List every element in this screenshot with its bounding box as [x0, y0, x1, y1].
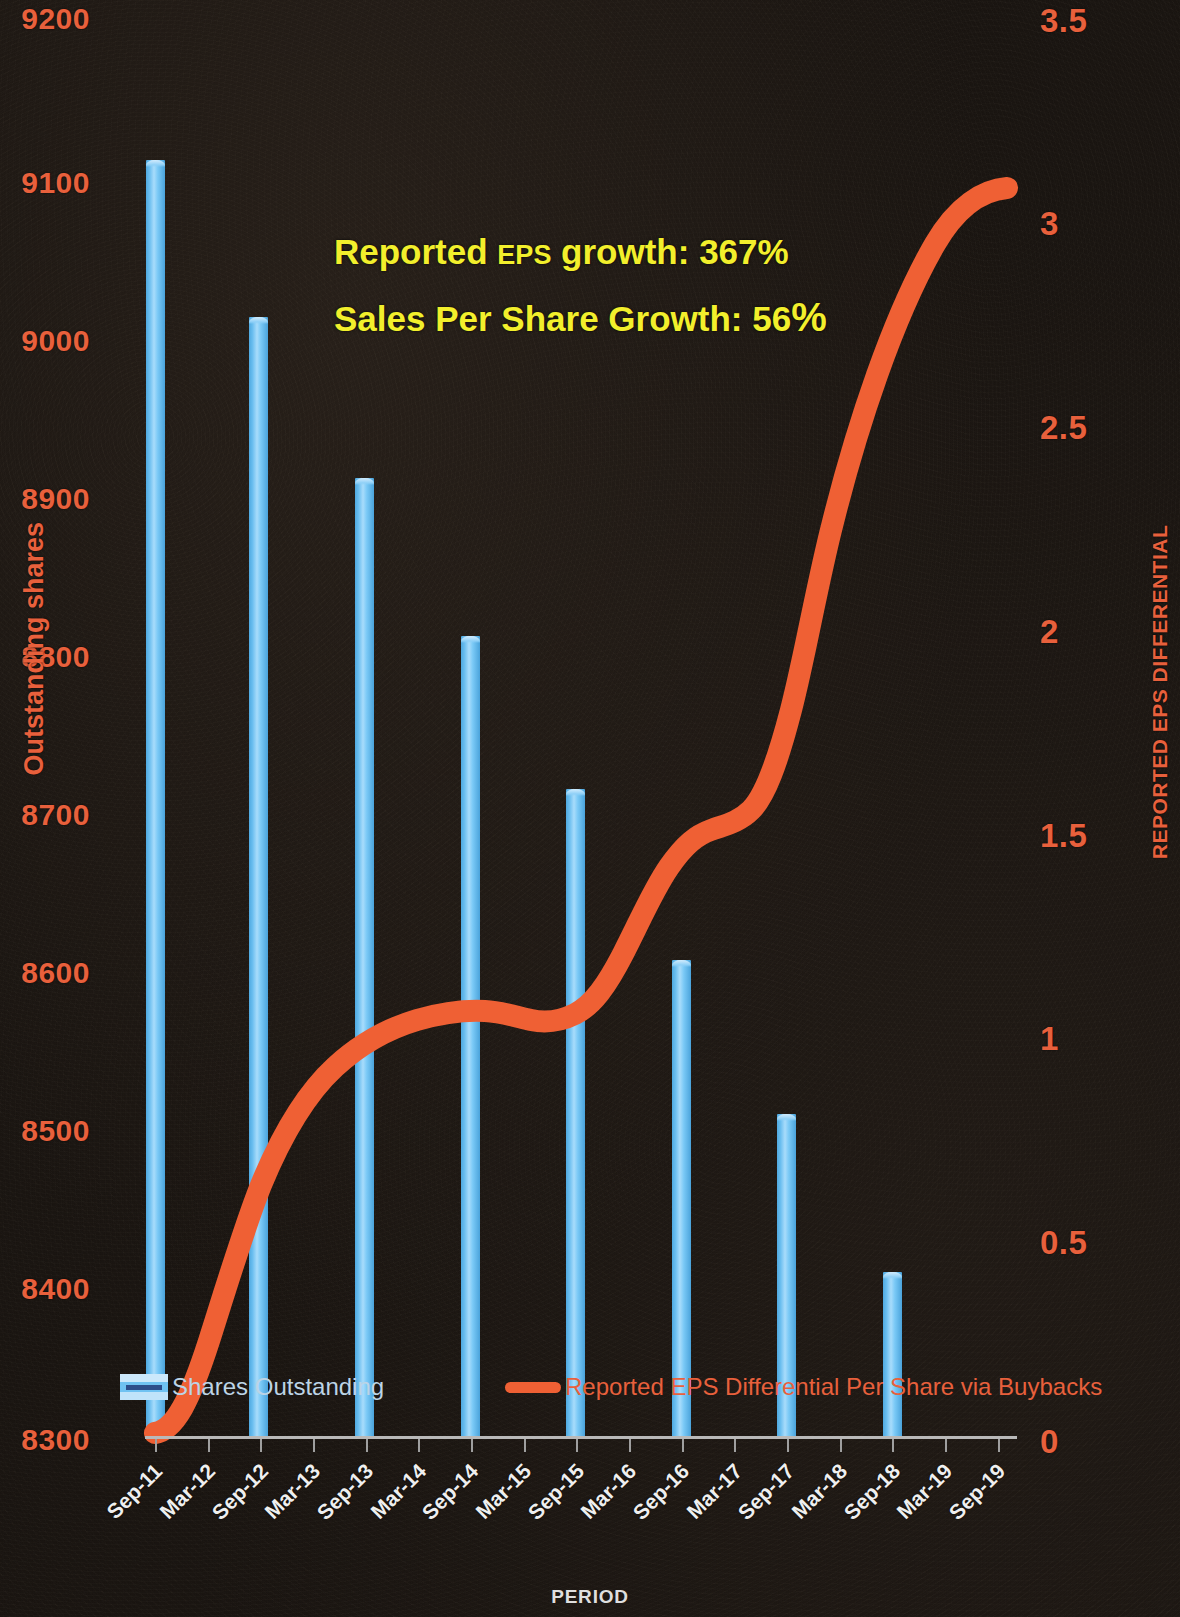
x-tickmark-14	[892, 1439, 894, 1452]
annotation-eps-growth-eps: EPS	[497, 240, 551, 270]
x-tickmark-7	[524, 1439, 526, 1452]
annotation-eps-growth-part2: growth: 367	[551, 232, 757, 271]
x-label-sep-17: Sep-17	[733, 1459, 799, 1525]
y-left-tick-8600: 8600	[21, 956, 90, 990]
chart-canvas: 9200 9100 9000 8900 8800 8700 8600 8500 …	[0, 0, 1180, 1617]
y-right-tick-1-5: 1.5	[1040, 817, 1087, 855]
annotation-sales-growth-text: Sales Per Share Growth: 56	[334, 299, 791, 338]
x-label-sep-11: Sep-11	[102, 1459, 167, 1524]
legend-item-eps-differential[interactable]: Reported EPS Differential Per Share via …	[505, 1373, 1102, 1401]
y-left-tick-9100: 9100	[21, 166, 90, 200]
x-label-sep-15: Sep-15	[523, 1459, 589, 1525]
y-axis-right-title: REPORTED EPS DIFFERENTIAL	[1148, 522, 1172, 862]
y-left-tick-9000: 9000	[21, 324, 90, 358]
x-tickmark-4	[366, 1439, 368, 1452]
x-tickmark-3	[313, 1439, 315, 1452]
legend-line-swatch-icon	[505, 1382, 561, 1393]
x-tickmark-13	[840, 1439, 842, 1452]
x-label-mar-19: Mar-19	[892, 1459, 957, 1524]
x-label-mar-17: Mar-17	[682, 1459, 747, 1524]
annotation-eps-growth-part1: Reported	[334, 232, 497, 271]
x-label-mar-13: Mar-13	[260, 1459, 325, 1524]
x-label-sep-13: Sep-13	[312, 1459, 378, 1525]
y-left-tick-8500: 8500	[21, 1114, 90, 1148]
legend-item-shares-outstanding[interactable]: Shares Outstanding	[120, 1373, 384, 1401]
y-left-tick-8900: 8900	[21, 482, 90, 516]
x-label-mar-16: Mar-16	[576, 1459, 641, 1524]
y-right-tick-2: 2	[1040, 613, 1059, 651]
annotation-eps-growth: Reported EPS growth: 367%	[334, 232, 789, 272]
x-label-sep-16: Sep-16	[628, 1459, 694, 1525]
x-tickmark-5	[418, 1439, 420, 1452]
x-tickmark-12	[787, 1439, 789, 1452]
x-tickmark-16	[998, 1439, 1000, 1452]
x-tickmark-8	[576, 1439, 578, 1452]
x-axis-line	[145, 1436, 1017, 1439]
x-label-mar-15: Mar-15	[471, 1459, 536, 1524]
x-label-sep-19: Sep-19	[944, 1459, 1010, 1525]
y-left-tick-8300: 8300	[21, 1423, 90, 1457]
chart-legend: Shares Outstanding Reported EPS Differen…	[120, 1373, 1050, 1407]
x-tickmark-1	[208, 1439, 210, 1452]
eps-differential-line	[145, 10, 1017, 1437]
x-label-mar-12: Mar-12	[155, 1459, 220, 1524]
x-tickmark-2	[260, 1439, 262, 1452]
x-label-mar-18: Mar-18	[787, 1459, 852, 1524]
y-right-tick-0: 0	[1040, 1423, 1059, 1461]
x-tickmark-0	[155, 1439, 157, 1452]
x-label-sep-14: Sep-14	[417, 1459, 483, 1525]
x-label-sep-12: Sep-12	[207, 1459, 273, 1525]
plot-area	[145, 10, 1017, 1437]
x-tickmark-10	[682, 1439, 684, 1452]
annotation-sales-growth: Sales Per Share Growth: 56%	[334, 295, 827, 340]
y-right-tick-1: 1	[1040, 1020, 1059, 1058]
legend-label-shares-outstanding: Shares Outstanding	[172, 1373, 384, 1401]
y-right-tick-0-5: 0.5	[1040, 1224, 1087, 1262]
y-right-tick-3-5: 3.5	[1040, 2, 1087, 40]
annotation-eps-growth-pct: %	[758, 232, 789, 271]
annotation-sales-growth-pct: %	[791, 295, 827, 339]
y-right-tick-3: 3	[1040, 205, 1059, 243]
x-tickmark-15	[945, 1439, 947, 1452]
x-axis-title: PERIOD	[0, 1586, 1180, 1608]
x-tickmark-6	[471, 1439, 473, 1452]
x-tickmark-9	[629, 1439, 631, 1452]
x-tickmark-11	[734, 1439, 736, 1452]
y-left-tick-8700: 8700	[21, 798, 90, 832]
x-label-sep-18: Sep-18	[839, 1459, 905, 1525]
y-left-tick-9200: 9200	[21, 2, 90, 36]
legend-bar-swatch-icon	[120, 1374, 168, 1400]
x-label-mar-14: Mar-14	[366, 1459, 431, 1524]
y-left-tick-8400: 8400	[21, 1272, 90, 1306]
y-right-tick-2-5: 2.5	[1040, 409, 1087, 447]
legend-label-eps-differential: Reported EPS Differential Per Share via …	[565, 1373, 1102, 1401]
y-axis-left-title: Outstanding shares	[19, 536, 50, 776]
